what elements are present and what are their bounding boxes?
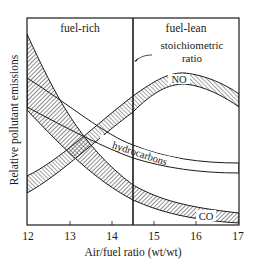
co-label: CO [199, 211, 214, 222]
hydrocarbons-label: hydrocarbons [111, 139, 169, 167]
tick-label: 17 [232, 230, 244, 242]
fuel-rich-label: fuel-rich [60, 22, 100, 34]
x-axis-label: Air/fuel ratio (wt/wt) [84, 246, 181, 259]
plot-svg: fuel-rich fuel-lean stoichiometric ratio… [0, 0, 255, 268]
tick-label: 13 [64, 230, 76, 242]
tick-label: 15 [148, 230, 160, 242]
tick-label: 16 [190, 230, 202, 242]
y-axis-label: Relative pollutant emissions [8, 54, 21, 185]
stoichiometric-label-line2: ratio [182, 52, 203, 64]
fuel-lean-label: fuel-lean [166, 22, 207, 34]
stoichiometric-label-line1: stoichiometric [161, 39, 224, 51]
emissions-diagram: fuel-rich fuel-lean stoichiometric ratio… [0, 0, 255, 268]
tick-label: 12 [22, 230, 34, 242]
tick-label: 14 [106, 230, 118, 242]
stoichiometric-arrow-icon [135, 55, 152, 61]
x-tick-labels: 12 13 14 15 16 17 [22, 230, 244, 242]
no-label: NO [171, 74, 187, 85]
